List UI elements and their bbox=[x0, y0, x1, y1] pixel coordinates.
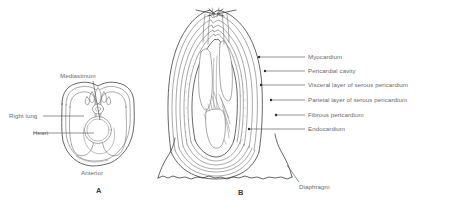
label-pericardial-cavity: Pericardial cavity bbox=[308, 68, 356, 74]
leader-diaphragm bbox=[287, 165, 299, 182]
marker-endocardium bbox=[248, 128, 250, 130]
label-parietal-layer: Parietal layer of serous pericardium bbox=[308, 97, 407, 103]
label-visceral-layer: Visceral layer of serous pericardium bbox=[308, 82, 408, 88]
ventricle-right-chamber bbox=[219, 41, 232, 101]
diaphragm-right-flank bbox=[275, 134, 292, 177]
anatomy-figure: Mediastinum Right lung Heart Anterior A … bbox=[0, 0, 455, 212]
marker-visceral-layer bbox=[260, 84, 262, 86]
label-fibrous-pericardium: Fibrous pericardium bbox=[308, 112, 364, 118]
panel-letter-a: A bbox=[96, 186, 102, 195]
heart-outline bbox=[85, 117, 112, 144]
marker-parietal-layer bbox=[270, 99, 272, 101]
panel-b-leaders bbox=[248, 56, 305, 182]
label-anterior: Anterior bbox=[81, 170, 103, 176]
label-right-lung: Right lung bbox=[9, 113, 37, 119]
pericardial-reflection-marks bbox=[196, 8, 236, 17]
marker-myocardium bbox=[258, 56, 260, 58]
panel-letter-b: B bbox=[238, 188, 244, 197]
figure-artwork bbox=[0, 0, 455, 212]
fibrous-apex bbox=[171, 152, 259, 179]
diaphragm-left-flank bbox=[158, 138, 175, 178]
label-myocardium: Myocardium bbox=[308, 54, 342, 60]
label-heart: Heart bbox=[33, 130, 48, 136]
marker-pericardial-cavity bbox=[264, 70, 266, 72]
label-mediastinum: Mediastinum bbox=[60, 73, 96, 79]
marker-fibrous-pericardium bbox=[275, 114, 277, 116]
panel-a-artwork bbox=[33, 81, 134, 166]
panel-b-artwork bbox=[158, 8, 305, 182]
label-diaphragm: Diaphragm bbox=[299, 184, 330, 190]
ventricular-lumen bbox=[206, 109, 226, 148]
label-endocardium: Endocardium bbox=[308, 126, 345, 132]
